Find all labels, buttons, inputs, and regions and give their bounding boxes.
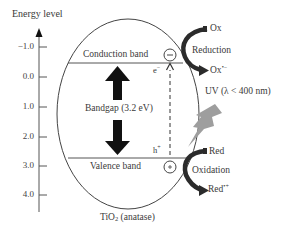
diagram-canvas — [0, 0, 288, 229]
oxidation-product: Red•+ — [208, 185, 229, 195]
tick-label: 2.0 — [4, 132, 34, 141]
tick-label: −1.0 — [4, 42, 34, 51]
reduction-product: Ox•− — [210, 66, 227, 76]
tio2-particle-outline — [57, 19, 199, 209]
tick-label: 4.0 — [4, 190, 34, 199]
uv-label: UV (λ < 400 nm) — [205, 87, 271, 97]
uv-lightning-bolt-icon — [188, 104, 222, 147]
bandgap-down-arrow-icon — [105, 120, 130, 155]
energy-axis — [36, 28, 48, 212]
tick-label: 0.0 — [4, 72, 34, 81]
axis-arrow-icon — [36, 28, 43, 37]
reduction-process: Reduction — [192, 46, 231, 56]
tick-label: 1.0 — [4, 102, 34, 111]
electron-label: e− — [153, 66, 160, 75]
reduction-reactant: Ox — [210, 24, 222, 34]
conduction-band-label: Conduction band — [83, 50, 148, 60]
excitation-arrowhead-icon — [167, 64, 174, 71]
bandgap-up-arrow-icon — [105, 66, 130, 100]
axis-title: Energy level — [12, 9, 63, 19]
tick-label: 3.0 — [4, 161, 34, 170]
material-label: TiO2 (anatase) — [100, 213, 155, 223]
oxidation-reactant: Red — [209, 147, 224, 157]
valence-band-label: Valence band — [90, 162, 141, 172]
bandgap-label: Bandgap (3.2 eV) — [85, 104, 153, 114]
hole-label: h+ — [153, 146, 161, 155]
oxidation-process: Oxidation — [192, 166, 230, 176]
